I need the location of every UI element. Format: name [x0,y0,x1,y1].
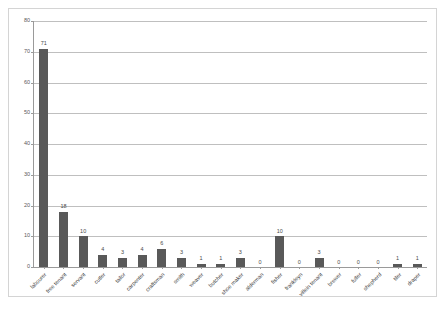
bar-value-label: 4 [141,247,144,253]
x-axis-tick-mark [260,267,261,269]
x-axis-label-slot: craftsman [152,270,172,313]
bar-value-label: 1 [200,256,203,262]
x-axis-tick-mark [398,267,399,269]
bar[interactable] [98,255,107,267]
bar[interactable] [59,212,68,267]
x-axis-label-slot: shepherd [369,270,389,313]
x-axis-tick-label: brewer [328,272,344,288]
bar-group[interactable]: 10 [270,21,290,267]
x-axis-tick-mark [181,267,182,269]
bar-value-label: 10 [277,229,283,235]
bar-group[interactable]: 6 [152,21,172,267]
bar[interactable] [138,255,147,267]
x-axis-tick-mark [83,267,84,269]
x-axis-tick-mark [240,267,241,269]
bar-group[interactable]: 3 [113,21,133,267]
bar-value-label: 1 [219,256,222,262]
bar-value-label: 0 [259,260,262,266]
bar-value-label: 6 [160,241,163,247]
x-axis-tick-label: fuller [351,272,363,284]
bar[interactable] [39,49,48,267]
bar-value-label: 10 [80,229,86,235]
bar-group[interactable]: 4 [132,21,152,267]
bar-group[interactable]: 1 [407,21,427,267]
bar-value-label: 4 [101,247,104,253]
x-axis-tick-label: butcher [208,272,225,289]
x-axis-label-slot: servant [73,270,93,313]
bar-value-label: 0 [376,260,379,266]
bar-group[interactable]: 10 [73,21,93,267]
x-axis-tick-mark [103,267,104,269]
x-axis-label-slot: weaver [192,270,212,313]
bar-group[interactable]: 0 [329,21,349,267]
x-axis-tick-label: tiler [392,272,402,282]
bar-group[interactable]: 0 [368,21,388,267]
bar-group[interactable]: 1 [211,21,231,267]
x-axis-labels: labourerfree tenantservantcutlertailorca… [34,270,428,313]
x-axis-tick-label: smith [172,272,185,285]
bar[interactable] [177,258,186,267]
y-axis-tick-label: 20 [24,203,30,209]
x-axis-tick-label: fisher [271,272,284,285]
bar[interactable] [315,258,324,267]
x-axis-tick-mark [201,267,202,269]
bar[interactable] [79,236,88,267]
bar-group[interactable]: 18 [54,21,74,267]
plot-area: 01020304050607080 7118104346311301003000… [33,21,427,268]
bar[interactable] [157,249,166,267]
bar-group[interactable]: 1 [388,21,408,267]
x-axis-label-slot: alderman [251,270,271,313]
bar-group[interactable]: 0 [349,21,369,267]
bar-group[interactable]: 1 [191,21,211,267]
x-axis-label-slot: villein tenant [310,270,330,313]
bar-value-label: 71 [41,41,47,47]
bar-value-label: 1 [416,256,419,262]
x-axis-tick-mark [358,267,359,269]
y-axis-tick-label: 60 [24,80,30,86]
bar-group[interactable]: 0 [250,21,270,267]
bar[interactable] [236,258,245,267]
x-axis-label-slot: free tenant [54,270,74,313]
bar-group[interactable]: 3 [172,21,192,267]
chart-frame: 01020304050607080 7118104346311301003000… [8,8,437,297]
x-axis-tick-mark [63,267,64,269]
bar-group[interactable]: 71 [34,21,54,267]
bar-group[interactable]: 3 [309,21,329,267]
x-axis-tick-mark [339,267,340,269]
bar-value-label: 0 [298,260,301,266]
x-axis-label-slot: tiler [389,270,409,313]
x-axis-tick-mark [280,267,281,269]
y-axis-tick-label: 10 [24,234,30,240]
y-axis-tick-label: 30 [24,172,30,178]
x-axis-tick-mark [221,267,222,269]
y-axis-tick-label: 80 [24,18,30,24]
bar-group[interactable]: 4 [93,21,113,267]
x-axis-tick-label: labourer [30,272,48,290]
x-axis-tick-mark [142,267,143,269]
x-axis-tick-mark [319,267,320,269]
bar-value-label: 0 [357,260,360,266]
x-axis-tick-label: servant [70,272,87,289]
x-axis-label-slot: brewer [330,270,350,313]
x-axis-tick-label: cutler [93,272,106,285]
bar-value-label: 0 [337,260,340,266]
bar[interactable] [275,236,284,267]
x-axis-label-slot: cutler [93,270,113,313]
x-axis-tick-mark [122,267,123,269]
x-axis-tick-mark [44,267,45,269]
y-axis-tick-label: 0 [27,264,30,270]
x-axis-tick-label: weaver [189,272,205,288]
bar-group[interactable]: 3 [231,21,251,267]
x-axis-tick-mark [417,267,418,269]
y-axis-tick-label: 40 [24,141,30,147]
bar-series: 711810434631130100300011 [34,21,427,267]
bar-value-label: 3 [180,250,183,256]
bar[interactable] [118,258,127,267]
y-axis-tick-label: 70 [24,49,30,55]
bar-group[interactable]: 0 [290,21,310,267]
bar-value-label: 3 [239,250,242,256]
bar-value-label: 3 [121,250,124,256]
x-axis-label-slot: draper [408,270,428,313]
bar-value-label: 3 [317,250,320,256]
x-axis-tick-mark [162,267,163,269]
